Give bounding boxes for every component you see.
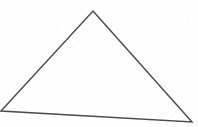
scan-speckle	[88, 62, 89, 63]
scan-speckle	[38, 14, 39, 15]
scan-speckle	[6, 58, 7, 59]
scan-speckle	[131, 18, 132, 19]
scan-speckle	[79, 122, 80, 123]
scan-speckle	[19, 86, 20, 87]
scan-speckle	[104, 6, 105, 7]
scan-speckle	[30, 120, 31, 121]
scan-speckle	[188, 23, 189, 24]
scan-speckle	[165, 40, 166, 41]
scan-speckle	[44, 98, 45, 99]
scan-speckle	[173, 116, 174, 117]
scan-speckle	[24, 33, 25, 34]
scan-speckle	[111, 29, 112, 30]
scan-speckle	[142, 8, 143, 9]
paper-background	[0, 0, 198, 127]
figure-canvas	[0, 0, 198, 127]
scan-speckle	[10, 18, 11, 19]
scan-speckle	[122, 104, 123, 105]
scan-speckle	[157, 94, 158, 95]
scan-speckle	[64, 78, 65, 79]
scan-speckle	[56, 25, 57, 26]
scan-speckle	[180, 72, 181, 73]
triangle-figure	[0, 0, 198, 127]
scan-speckle	[149, 55, 150, 56]
scan-speckle	[97, 92, 98, 93]
scan-speckle	[73, 47, 74, 48]
